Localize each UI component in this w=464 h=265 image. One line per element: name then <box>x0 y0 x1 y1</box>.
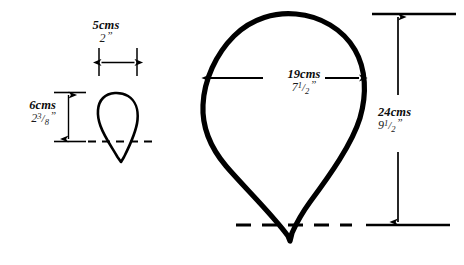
small-width-dimension <box>99 48 137 76</box>
fraction-denominator: 2 <box>391 124 395 134</box>
small-width-imperial: 2” <box>76 32 136 44</box>
large-height-imperial: 91/2” <box>378 119 448 131</box>
small-height-metric: 6cms <box>2 99 56 112</box>
small-height-fraction: 3/8 <box>37 112 49 124</box>
fraction-numerator: 1 <box>384 118 388 128</box>
large-width-imperial: 71/2” <box>268 81 340 93</box>
small-height-dimension <box>54 93 86 142</box>
large-width-metric: 19cms <box>268 68 340 81</box>
small-width-label: 5cms 2” <box>76 19 136 44</box>
inch-mark: ” <box>396 116 403 128</box>
small-teardrop-shape <box>98 93 138 162</box>
inch-mark: ” <box>105 29 112 41</box>
small-height-imperial: 23/8” <box>2 112 56 124</box>
fraction-numerator: 3 <box>37 111 41 121</box>
large-teardrop-shape <box>203 14 365 241</box>
large-width-label: 19cms 71/2” <box>268 68 340 93</box>
large-width-fraction: 1/2 <box>298 81 310 93</box>
large-height-label: 24cms 91/2” <box>378 106 448 131</box>
diagram-canvas: 5cms 2” 6cms 23/8” 19cms 71/2” 24cms 91/… <box>0 0 464 265</box>
inch-mark: ” <box>309 78 316 90</box>
large-height-metric: 24cms <box>378 106 448 119</box>
large-height-fraction: 1/2 <box>384 119 396 131</box>
fraction-numerator: 1 <box>298 80 302 90</box>
inch-mark: ” <box>49 109 56 121</box>
small-height-label: 6cms 23/8” <box>2 99 56 124</box>
